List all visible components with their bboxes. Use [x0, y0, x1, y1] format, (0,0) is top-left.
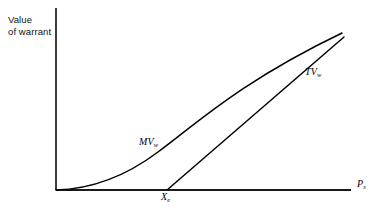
theoretical-value-subscript: w	[317, 71, 321, 78]
y-axis-label-line1: Value	[8, 14, 32, 25]
share-price-subscript: s	[363, 183, 366, 190]
x-axis-symbol-label: Ps	[357, 178, 366, 190]
warrant-value-chart: Valueof warrant MVw TVw Xe Ps	[0, 0, 376, 213]
theoretical-value-line	[167, 37, 344, 190]
y-axis-label: Valueof warrant	[8, 14, 51, 37]
theoretical-value-symbol: TV	[305, 66, 317, 77]
market-value-subscript: w	[154, 141, 158, 148]
exercise-price-label: Xe	[161, 191, 170, 203]
market-value-symbol: MV	[139, 136, 154, 147]
market-value-curve-label: MVw	[139, 136, 158, 148]
exercise-price-subscript: e	[167, 196, 170, 203]
market-value-curve	[56, 33, 342, 190]
chart-canvas	[0, 0, 376, 213]
y-axis-label-line2: of warrant	[8, 26, 51, 37]
theoretical-value-line-label: TVw	[305, 66, 321, 78]
